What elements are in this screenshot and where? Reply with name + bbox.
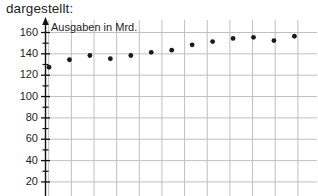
vertical-gridlines xyxy=(49,20,298,196)
data-point xyxy=(210,39,215,44)
data-point xyxy=(108,56,113,61)
horizontal-gridlines xyxy=(46,33,318,182)
y-axis-tick-label: 60 xyxy=(8,133,38,144)
data-point xyxy=(47,65,52,70)
data-point xyxy=(169,48,174,53)
y-axis-tick-label: 120 xyxy=(8,69,38,80)
y-axis-tick-label: 140 xyxy=(8,48,38,59)
data-point xyxy=(251,35,256,40)
data-point xyxy=(149,50,154,55)
y-axis-tick-label: 80 xyxy=(8,112,38,123)
y-axis-arrow-icon xyxy=(42,17,49,25)
data-point-series xyxy=(47,34,297,70)
y-axis-tick-label: 40 xyxy=(8,155,38,166)
data-point xyxy=(272,38,277,43)
data-point xyxy=(190,42,195,47)
data-point xyxy=(88,53,93,58)
data-point xyxy=(292,34,297,39)
data-point xyxy=(67,57,72,62)
scatter-plot-svg xyxy=(0,0,317,196)
y-axis-tick-label: 160 xyxy=(8,27,38,38)
y-axis-tick-label: 100 xyxy=(8,91,38,102)
y-axis xyxy=(42,17,49,196)
y-axis-title: Ausgaben in Mrd. xyxy=(51,21,137,33)
chart-screenshot: dargestellt: Ausgaben in Mrd. 1601401201… xyxy=(0,0,317,196)
chart-plot-area: Ausgaben in Mrd. 16014012010080604020 xyxy=(0,0,317,196)
data-point xyxy=(128,53,133,58)
y-axis-tick-label: 20 xyxy=(8,176,38,187)
data-point xyxy=(231,36,236,41)
